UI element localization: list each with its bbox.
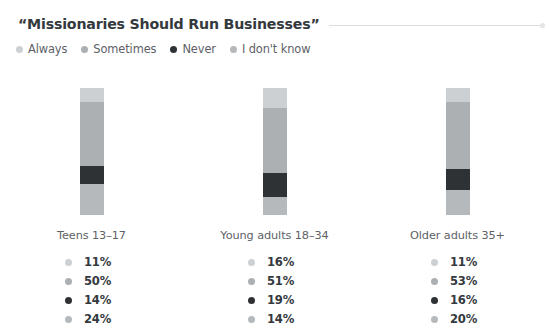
- value-text: 11%: [84, 255, 118, 269]
- bar-segment[interactable]: [80, 184, 104, 215]
- bar-segment[interactable]: [263, 173, 287, 197]
- legend-item-label: Sometimes: [93, 42, 156, 56]
- chart-group: Young adults 18–3416%51%19%14%: [183, 78, 366, 326]
- value-text: 24%: [84, 312, 118, 326]
- group-label: Older adults 35+: [410, 229, 505, 242]
- value-row: 16%: [431, 293, 484, 307]
- bar-container: [80, 78, 104, 215]
- value-row: 16%: [248, 255, 301, 269]
- bar-segment[interactable]: [80, 88, 104, 102]
- group-label: Teens 13–17: [57, 229, 126, 242]
- chart-legend: AlwaysSometimesNeverI don't know: [16, 42, 310, 56]
- value-row: 11%: [65, 255, 118, 269]
- value-text: 51%: [267, 274, 301, 288]
- legend-dot-icon: [81, 46, 88, 53]
- bar-segment[interactable]: [263, 88, 287, 108]
- value-dot-icon: [431, 259, 438, 266]
- bar-segment[interactable]: [263, 108, 287, 173]
- value-list: 11%50%14%24%: [65, 255, 118, 326]
- rule-endcap-dot-icon: [540, 23, 545, 28]
- value-row: 24%: [65, 312, 118, 326]
- value-text: 20%: [450, 312, 484, 326]
- legend-item[interactable]: Sometimes: [81, 42, 156, 56]
- value-row: 53%: [431, 274, 484, 288]
- legend-item-label: Never: [182, 42, 215, 56]
- value-list: 11%53%16%20%: [431, 255, 484, 326]
- bar-segment[interactable]: [446, 190, 470, 215]
- stacked-bar[interactable]: [80, 88, 104, 215]
- value-row: 14%: [65, 293, 118, 307]
- chart-header: “Missionaries Should Run Businesses”: [18, 13, 545, 35]
- value-row: 11%: [431, 255, 484, 269]
- value-text: 53%: [450, 274, 484, 288]
- value-dot-icon: [248, 297, 255, 304]
- stacked-bar[interactable]: [446, 88, 470, 215]
- value-row: 14%: [248, 312, 301, 326]
- title-divider: [329, 25, 540, 26]
- bar-segment[interactable]: [80, 102, 104, 166]
- value-dot-icon: [65, 278, 72, 285]
- bar-segment[interactable]: [80, 166, 104, 184]
- value-text: 50%: [84, 274, 118, 288]
- value-dot-icon: [65, 316, 72, 323]
- value-text: 14%: [267, 312, 301, 326]
- legend-item[interactable]: I don't know: [230, 42, 311, 56]
- value-dot-icon: [248, 259, 255, 266]
- bar-segment[interactable]: [263, 197, 287, 215]
- value-row: 20%: [431, 312, 484, 326]
- legend-item-label: I don't know: [242, 42, 311, 56]
- chart-group: Teens 13–1711%50%14%24%: [0, 78, 183, 326]
- stacked-bar[interactable]: [263, 88, 287, 215]
- legend-item[interactable]: Always: [16, 42, 67, 56]
- value-dot-icon: [431, 316, 438, 323]
- legend-dot-icon: [230, 46, 237, 53]
- value-text: 19%: [267, 293, 301, 307]
- value-row: 50%: [65, 274, 118, 288]
- value-dot-icon: [65, 259, 72, 266]
- value-row: 19%: [248, 293, 301, 307]
- value-dot-icon: [248, 316, 255, 323]
- value-list: 16%51%19%14%: [248, 255, 301, 326]
- legend-dot-icon: [16, 46, 23, 53]
- value-dot-icon: [65, 297, 72, 304]
- value-text: 16%: [450, 293, 484, 307]
- group-label: Young adults 18–34: [220, 229, 328, 242]
- bar-container: [263, 78, 287, 215]
- value-text: 14%: [84, 293, 118, 307]
- value-dot-icon: [431, 297, 438, 304]
- value-text: 16%: [267, 255, 301, 269]
- legend-item[interactable]: Never: [170, 42, 215, 56]
- value-text: 11%: [450, 255, 484, 269]
- legend-dot-icon: [170, 46, 177, 53]
- bar-segment[interactable]: [446, 88, 470, 102]
- value-dot-icon: [431, 278, 438, 285]
- chart-group: Older adults 35+11%53%16%20%: [366, 78, 549, 326]
- bar-segment[interactable]: [446, 169, 470, 189]
- page-title: “Missionaries Should Run Businesses”: [18, 16, 320, 32]
- value-row: 51%: [248, 274, 301, 288]
- chart-plot-area: Teens 13–1711%50%14%24%Young adults 18–3…: [0, 78, 549, 326]
- legend-item-label: Always: [28, 42, 67, 56]
- value-dot-icon: [248, 278, 255, 285]
- bar-container: [446, 78, 470, 215]
- bar-segment[interactable]: [446, 102, 470, 169]
